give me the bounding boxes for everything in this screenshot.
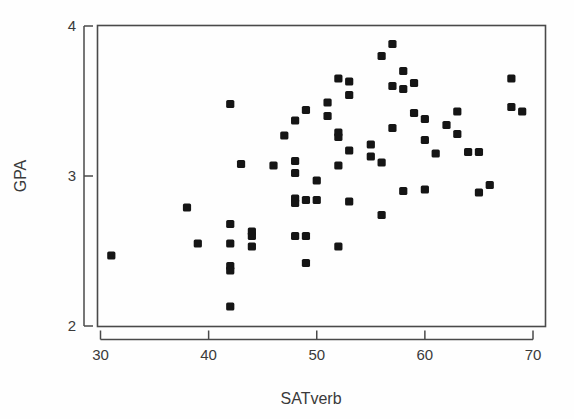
data-point <box>313 176 321 184</box>
scatter-plot-figure: 3040506070234 SATverb GPA <box>0 0 574 419</box>
data-point <box>269 161 277 169</box>
data-point <box>313 196 321 204</box>
data-point <box>475 148 483 156</box>
y-tick-label-2: 2 <box>68 317 76 334</box>
data-point <box>226 100 234 108</box>
data-point <box>291 232 299 240</box>
data-point <box>378 52 386 60</box>
data-point <box>302 259 310 267</box>
data-point <box>226 239 234 247</box>
plot-canvas: 3040506070234 SATverb GPA <box>0 0 574 419</box>
y-tick-label-4: 4 <box>68 17 76 34</box>
x-tick-label-70: 70 <box>525 346 542 363</box>
x-tick-label-30: 30 <box>92 346 109 363</box>
data-point <box>334 161 342 169</box>
data-point <box>432 149 440 157</box>
data-point <box>453 107 461 115</box>
data-point <box>475 188 483 196</box>
data-point <box>507 74 515 82</box>
y-axis-title: GPA <box>12 159 29 192</box>
data-point <box>226 302 234 310</box>
data-point <box>421 136 429 144</box>
data-point <box>421 185 429 193</box>
axis-ticks <box>84 26 533 340</box>
data-point <box>345 91 353 99</box>
x-tick-label-60: 60 <box>417 346 434 363</box>
data-point <box>334 74 342 82</box>
data-point <box>323 98 331 106</box>
data-point <box>302 106 310 114</box>
y-tick-label-3: 3 <box>68 167 76 184</box>
data-point <box>291 157 299 165</box>
data-point <box>334 242 342 250</box>
data-point <box>378 211 386 219</box>
data-point <box>410 79 418 87</box>
data-point <box>399 67 407 75</box>
data-point <box>410 109 418 117</box>
data-point <box>399 85 407 93</box>
data-points <box>107 40 526 311</box>
x-axis-title: SATverb <box>280 390 341 407</box>
data-point <box>226 220 234 228</box>
data-point <box>280 131 288 139</box>
data-point <box>226 266 234 274</box>
data-point <box>237 160 245 168</box>
data-point <box>442 121 450 129</box>
data-point <box>345 146 353 154</box>
data-point <box>518 107 526 115</box>
data-point <box>388 82 396 90</box>
data-point <box>291 169 299 177</box>
data-point <box>367 140 375 148</box>
data-point <box>345 77 353 85</box>
data-point <box>486 181 494 189</box>
data-point <box>107 251 115 259</box>
data-point <box>464 148 472 156</box>
data-point <box>291 116 299 124</box>
data-point <box>421 115 429 123</box>
data-point <box>302 196 310 204</box>
data-point <box>399 187 407 195</box>
data-point <box>183 203 191 211</box>
x-tick-label-40: 40 <box>200 346 217 363</box>
data-point <box>248 242 256 250</box>
data-point <box>388 124 396 132</box>
data-point <box>302 232 310 240</box>
data-point <box>345 197 353 205</box>
x-tick-label-50: 50 <box>308 346 325 363</box>
data-point <box>334 133 342 141</box>
data-point <box>248 232 256 240</box>
data-point <box>367 152 375 160</box>
data-point <box>453 130 461 138</box>
data-point <box>323 112 331 120</box>
axis-tick-labels: 3040506070234 <box>68 17 542 363</box>
data-point <box>388 40 396 48</box>
data-point <box>378 158 386 166</box>
plot-frame <box>98 26 546 327</box>
data-point <box>291 199 299 207</box>
data-point <box>507 103 515 111</box>
data-point <box>194 239 202 247</box>
